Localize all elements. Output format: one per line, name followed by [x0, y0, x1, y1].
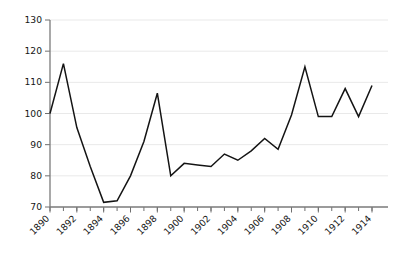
x-tick-label: 1912: [322, 213, 346, 237]
x-tick-label: 1900: [161, 213, 185, 237]
data-series-line: [50, 64, 372, 203]
x-tick-label: 1892: [54, 213, 78, 237]
x-tick-label: 1904: [215, 213, 239, 237]
x-axis-major-ticks: [50, 207, 372, 213]
x-tick-label: 1894: [81, 213, 105, 237]
chart-canvas: 708090100110120130 189018921894189618981…: [0, 0, 400, 255]
x-tick-label: 1910: [295, 213, 319, 237]
x-axis-tick-labels: 1890189218941896189819001902190419061908…: [27, 213, 373, 237]
x-tick-label: 1906: [242, 213, 266, 237]
line-chart: 708090100110120130 189018921894189618981…: [0, 0, 400, 255]
y-tick-label: 70: [30, 201, 42, 212]
x-tick-label: 1890: [27, 213, 51, 237]
x-tick-label: 1902: [188, 213, 212, 237]
y-tick-label: 120: [24, 45, 42, 56]
x-tick-label: 1914: [349, 213, 373, 237]
y-axis-major-ticks: [45, 20, 50, 207]
y-tick-label: 80: [30, 170, 42, 181]
x-tick-label: 1898: [134, 213, 158, 237]
x-tick-label: 1908: [269, 213, 293, 237]
y-tick-label: 130: [24, 14, 42, 25]
y-tick-label: 100: [24, 108, 42, 119]
gridlines: [50, 20, 388, 176]
y-tick-label: 110: [24, 76, 42, 87]
x-tick-label: 1896: [108, 213, 132, 237]
y-axis-tick-labels: 708090100110120130: [24, 14, 42, 212]
y-tick-label: 90: [30, 139, 42, 150]
